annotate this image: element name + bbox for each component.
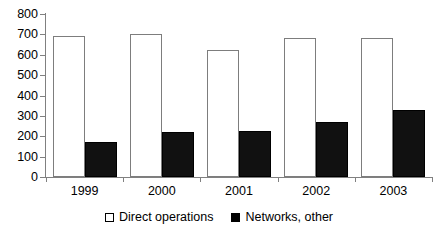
legend-swatch-direct-icon [105, 213, 114, 222]
x-category-label-2001: 2001 [200, 185, 277, 198]
bar-networks-2001 [239, 131, 271, 177]
bar-networks-2002 [316, 122, 348, 177]
bar-direct-2000 [130, 34, 162, 177]
x-tick-mark [432, 177, 433, 182]
x-tick-mark [46, 177, 47, 182]
y-tick-label: 0 [0, 171, 38, 184]
x-tick-mark [355, 177, 356, 182]
bar-networks-2003 [393, 110, 425, 177]
plot-area [46, 14, 432, 177]
bar-direct-2002 [284, 38, 316, 177]
legend-item-direct[interactable]: Direct operations [105, 211, 214, 224]
bar-direct-2003 [361, 38, 393, 177]
legend-label-direct: Direct operations [119, 211, 214, 224]
bar-direct-2001 [207, 50, 239, 177]
y-tick-label: 800 [0, 8, 38, 21]
y-tick-label: 600 [0, 49, 38, 62]
x-axis-line [45, 177, 433, 178]
legend-item-networks[interactable]: Networks, other [231, 211, 333, 224]
y-tick-mark [40, 96, 45, 97]
y-tick-mark [40, 157, 45, 158]
chart-legend: Direct operationsNetworks, other [0, 211, 438, 224]
bar-networks-1999 [85, 142, 117, 177]
y-tick-mark [40, 55, 45, 56]
x-tick-mark [278, 177, 279, 182]
y-tick-label: 100 [0, 151, 38, 164]
y-tick-mark [40, 34, 45, 35]
y-tick-mark [40, 116, 45, 117]
x-category-label-2003: 2003 [355, 185, 432, 198]
x-category-label-2000: 2000 [123, 185, 200, 198]
y-tick-label: 300 [0, 110, 38, 123]
y-tick-label: 400 [0, 90, 38, 103]
x-tick-mark [200, 177, 201, 182]
x-category-label-1999: 1999 [46, 185, 123, 198]
legend-swatch-networks-icon [231, 213, 240, 222]
y-tick-mark [40, 14, 45, 15]
x-category-label-2002: 2002 [278, 185, 355, 198]
bar-chart: 0100200300400500600700800 19992000200120… [0, 0, 438, 236]
x-tick-mark [123, 177, 124, 182]
y-tick-label: 700 [0, 28, 38, 41]
y-tick-mark [40, 177, 45, 178]
y-tick-label: 200 [0, 130, 38, 143]
legend-label-networks: Networks, other [245, 211, 333, 224]
bar-networks-2000 [162, 132, 194, 177]
bar-direct-1999 [53, 36, 85, 177]
y-tick-mark [40, 75, 45, 76]
y-tick-mark [40, 136, 45, 137]
y-tick-label: 500 [0, 69, 38, 82]
